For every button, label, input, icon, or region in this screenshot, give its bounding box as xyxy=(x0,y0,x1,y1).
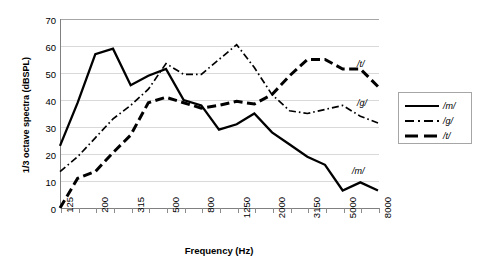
legend-item-m: /m/ xyxy=(399,98,471,113)
x-tick-4000 xyxy=(326,208,327,213)
inline-label-t: /t/ xyxy=(357,59,365,69)
x-tick-8000 xyxy=(379,208,380,213)
legend-item-t: /t/ xyxy=(399,128,471,143)
x-tick-label-200: 200 xyxy=(99,197,110,213)
series-line-m xyxy=(60,49,378,191)
x-axis-title: Frequency (Hz) xyxy=(60,245,378,256)
y-tick-label-30: 30 xyxy=(45,123,56,134)
x-tick-3150 xyxy=(308,208,309,213)
x-tick-label-2000: 2000 xyxy=(276,197,287,218)
x-tick-1250 xyxy=(238,208,239,213)
legend-label-g: /g/ xyxy=(443,116,453,126)
x-tick-1600 xyxy=(255,208,256,213)
x-tick-label-125: 125 xyxy=(64,197,75,213)
legend-swatch-g xyxy=(404,116,440,126)
chart-legend: /m/ /g/ /t/ xyxy=(398,92,472,144)
x-tick-800 xyxy=(202,208,203,213)
inline-label-m: /m/ xyxy=(352,166,365,176)
y-tick-label-20: 20 xyxy=(45,150,56,161)
y-axis-title: 1/3 octave spectra (dBSPL) xyxy=(21,15,31,215)
y-tick-label-0: 0 xyxy=(51,204,56,215)
x-tick-label-3150: 3150 xyxy=(311,197,322,218)
x-tick-2500 xyxy=(291,208,292,213)
x-tick-125 xyxy=(61,208,62,213)
legend-swatch-t xyxy=(404,131,440,141)
x-tick-2000 xyxy=(273,208,274,213)
x-tick-400 xyxy=(149,208,150,213)
legend-swatch-m xyxy=(404,101,440,111)
legend-item-g: /g/ xyxy=(399,113,471,128)
y-tick-label-70: 70 xyxy=(45,15,56,26)
inline-label-g: /g/ xyxy=(357,98,367,108)
legend-label-t: /t/ xyxy=(443,131,451,141)
y-tick-label-10: 10 xyxy=(45,177,56,188)
x-tick-500 xyxy=(167,208,168,213)
x-tick-label-5000: 5000 xyxy=(347,197,358,218)
x-tick-label-500: 500 xyxy=(170,197,181,213)
x-tick-5000 xyxy=(344,208,345,213)
series-line-t xyxy=(60,60,378,209)
y-tick-label-60: 60 xyxy=(45,42,56,53)
x-tick-200 xyxy=(96,208,97,213)
y-tick-label-40: 40 xyxy=(45,96,56,107)
x-tick-label-1250: 1250 xyxy=(241,197,252,218)
x-tick-250 xyxy=(114,208,115,213)
x-tick-6300 xyxy=(361,208,362,213)
x-tick-630 xyxy=(185,208,186,213)
x-tick-label-8000: 8000 xyxy=(382,197,393,218)
x-tick-label-315: 315 xyxy=(135,197,146,213)
y-tick-label-50: 50 xyxy=(45,69,56,80)
x-tick-label-800: 800 xyxy=(205,197,216,213)
chart-figure: 1/3 octave spectra (dBSPL) 7060504030201… xyxy=(0,0,482,266)
x-tick-315 xyxy=(132,208,133,213)
series-lines xyxy=(60,19,378,208)
legend-label-m: /m/ xyxy=(443,101,456,111)
x-tick-1000 xyxy=(220,208,221,213)
x-tick-160 xyxy=(79,208,80,213)
